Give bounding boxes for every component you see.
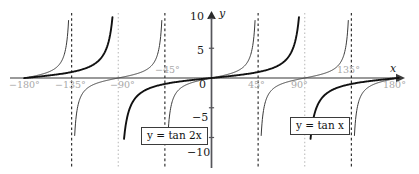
y-tick-label--5: −5	[192, 112, 208, 123]
y-tick-label--10: −10	[187, 147, 210, 158]
y-tick-label-10: 10	[190, 11, 204, 22]
equation-label-tanx: y = tan x	[290, 117, 350, 135]
y-tick-label-0: 0	[199, 79, 206, 90]
equation-label-tan2x: y = tan 2x	[141, 127, 208, 145]
y-tick-label-5: 5	[197, 45, 204, 56]
x-tick-label--90: −90°	[110, 80, 135, 90]
x-tick-label--180: −180°	[9, 80, 40, 90]
x-tick-label-180: 180°	[383, 80, 406, 90]
x-tick-label-90: 90°	[291, 80, 308, 90]
curve-y-tan-2x-branch-0	[24, 21, 68, 79]
trig-graph-figure: −180° −135° −90° −45° 45° 90° 135° 180° …	[0, 0, 419, 174]
y-axis-name: y	[219, 8, 225, 19]
x-tick-label--45: −45°	[155, 65, 180, 75]
x-axis-name: x	[390, 63, 396, 74]
y-axis-arrowhead	[207, 11, 216, 19]
x-tick-label-135: 135°	[337, 65, 360, 75]
x-tick-label-45: 45°	[248, 80, 265, 90]
x-tick-label--135: −135°	[55, 80, 86, 90]
